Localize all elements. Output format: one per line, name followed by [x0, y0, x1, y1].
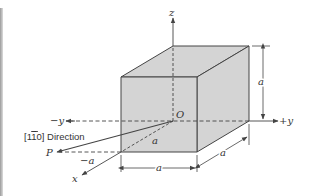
cube [121, 46, 249, 152]
pos-y-axis-label: +y [279, 115, 293, 126]
width-dimension-label: a [156, 162, 162, 173]
z-axis-label: z [168, 7, 175, 18]
neg-a-label: −a [80, 155, 94, 166]
origin-label: O [176, 109, 184, 120]
diagonal-a-label: a [152, 135, 158, 146]
point-p-label: P [45, 147, 53, 158]
direction-label: [110] Direction [24, 131, 85, 142]
cubic-cell-diagram: z +y −y x O P a a a a −a [110] Direction [0, 0, 310, 196]
depth-dimension-label: a [220, 147, 226, 158]
cube-front-face [121, 77, 197, 152]
x-axis-label: x [72, 173, 78, 184]
neg-y-axis-label: −y [50, 115, 64, 126]
height-dimension-label: a [258, 76, 264, 87]
